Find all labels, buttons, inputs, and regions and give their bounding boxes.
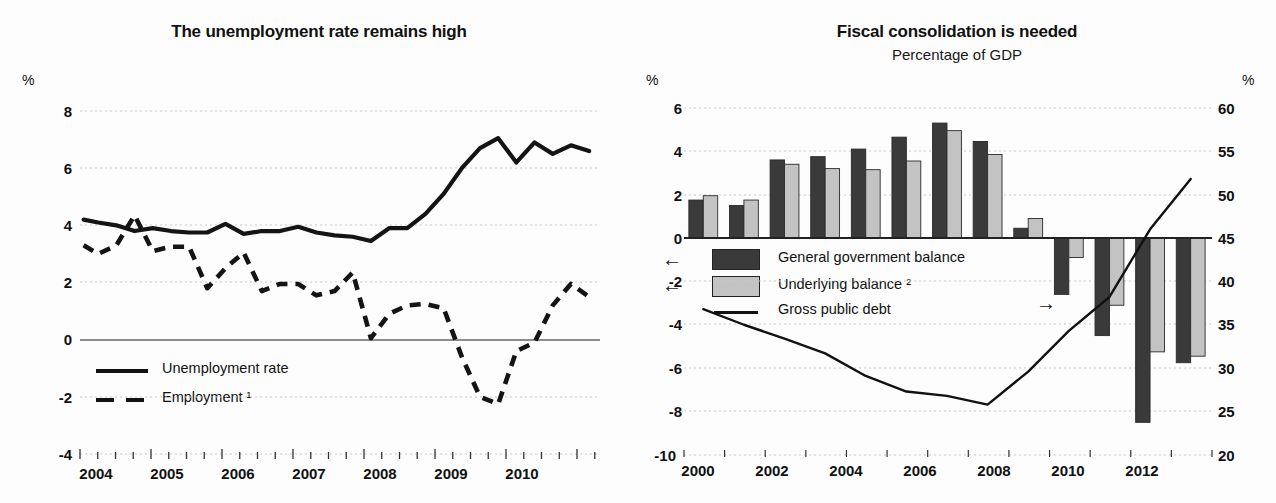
gridlines bbox=[80, 111, 600, 454]
figure-page: The unemployment rate remains high % 8 6… bbox=[0, 0, 1276, 503]
bar-underlying-balance-2012 bbox=[1191, 238, 1205, 356]
bar-underlying-balance-2004 bbox=[866, 170, 880, 238]
plot-area-fiscal bbox=[638, 0, 1276, 503]
x-axis-ticks bbox=[80, 449, 595, 459]
x-axis-ticks-fiscal bbox=[684, 450, 1212, 457]
bar-general-government-balance-2001 bbox=[729, 205, 743, 238]
bar-underlying-balance-2002 bbox=[785, 164, 799, 238]
bar-group-fiscal bbox=[689, 123, 1205, 422]
bar-general-government-balance-2004 bbox=[851, 149, 865, 238]
bar-underlying-balance-2001 bbox=[744, 200, 758, 238]
bar-underlying-balance-2005 bbox=[906, 161, 920, 238]
chart-panel-unemployment: The unemployment rate remains high % 8 6… bbox=[0, 0, 638, 503]
chart-panel-fiscal: Fiscal consolidation is needed Percentag… bbox=[638, 0, 1276, 503]
bar-general-government-balance-2008 bbox=[1014, 228, 1028, 238]
series-line-unemployment-rate bbox=[84, 138, 589, 241]
bar-underlying-balance-2006 bbox=[947, 131, 961, 238]
bar-general-government-balance-2003 bbox=[811, 157, 825, 238]
bar-general-government-balance-2000 bbox=[689, 200, 703, 238]
bar-general-government-balance-2011 bbox=[1136, 238, 1150, 422]
bar-underlying-balance-2011 bbox=[1150, 238, 1164, 352]
bar-underlying-balance-2003 bbox=[825, 169, 839, 238]
bar-underlying-balance-2008 bbox=[1028, 218, 1042, 238]
bar-general-government-balance-2012 bbox=[1176, 238, 1190, 363]
bar-general-government-balance-2009 bbox=[1054, 238, 1068, 294]
bar-general-government-balance-2006 bbox=[933, 123, 947, 238]
plot-area-unemployment bbox=[0, 0, 638, 503]
series-line-employment bbox=[84, 215, 589, 404]
bar-general-government-balance-2005 bbox=[892, 137, 906, 238]
bar-underlying-balance-2009 bbox=[1069, 238, 1083, 258]
bar-general-government-balance-2010 bbox=[1095, 238, 1109, 336]
bar-underlying-balance-2007 bbox=[988, 155, 1002, 239]
bar-underlying-balance-2000 bbox=[703, 196, 717, 238]
bar-general-government-balance-2007 bbox=[973, 141, 987, 238]
bar-general-government-balance-2002 bbox=[770, 160, 784, 238]
